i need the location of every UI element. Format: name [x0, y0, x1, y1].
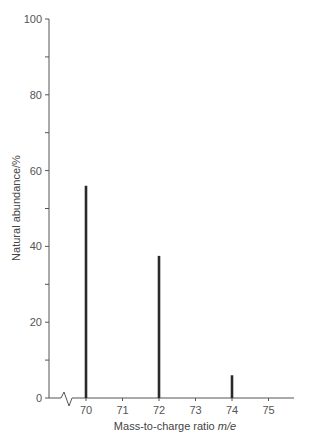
x-tick-label: 70 [80, 404, 92, 416]
y-tick-label: 0 [36, 392, 42, 404]
mass-spectrum-chart: 020406080100707172737475Mass-to-charge r… [0, 0, 309, 435]
y-tick-label: 40 [30, 240, 42, 252]
y-tick-label: 60 [30, 165, 42, 177]
x-tick-label: 73 [189, 404, 201, 416]
y-tick-label: 20 [30, 316, 42, 328]
x-tick-label: 72 [153, 404, 165, 416]
y-tick-label: 80 [30, 89, 42, 101]
x-tick-label: 74 [226, 404, 238, 416]
y-tick-label: 100 [24, 13, 42, 25]
x-tick-label: 75 [262, 404, 274, 416]
x-tick-label: 71 [116, 404, 128, 416]
x-axis-title: Mass-to-charge ratio m/e [114, 420, 236, 432]
y-axis-title: Natural abundance/% [10, 155, 22, 261]
